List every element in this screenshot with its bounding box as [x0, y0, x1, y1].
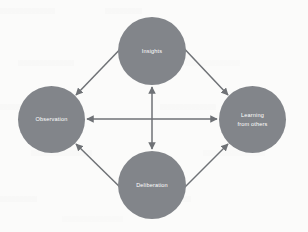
node-observation-label: Observation [30, 115, 74, 123]
node-deliberation-label: Deliberation [130, 181, 174, 189]
diagram-canvas: Insights Observation Learning from other… [0, 0, 308, 232]
node-insights[interactable]: Insights [118, 17, 186, 85]
node-insights-label: Insights [136, 47, 168, 55]
node-learning-from-others[interactable]: Learning from others [219, 86, 286, 153]
node-learning-from-others-label: Learning from others [232, 111, 274, 127]
node-deliberation[interactable]: Deliberation [118, 151, 186, 219]
node-observation[interactable]: Observation [18, 86, 85, 153]
